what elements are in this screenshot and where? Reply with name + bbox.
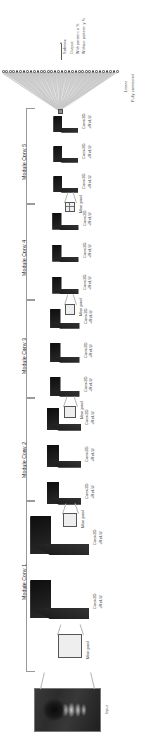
cnn-architecture-figure: Softmax Output: With pattern: x % Withou… bbox=[0, 0, 149, 752]
conv-layer-name: Conv2D bbox=[85, 483, 89, 499]
module-label: Module Conv 2 bbox=[22, 442, 27, 478]
conv-layer-activation: +ReLU bbox=[91, 411, 95, 425]
input-image bbox=[34, 688, 101, 732]
conv-layer-activation: +ReLU bbox=[89, 378, 93, 392]
input-label: Input bbox=[105, 705, 109, 714]
conv-layer-activation: +ReLU bbox=[88, 244, 92, 258]
conv-layer-activation: +ReLU bbox=[99, 595, 103, 609]
module-label: Module Conv 1 bbox=[22, 564, 27, 600]
module-label: Module Conv 3 bbox=[22, 338, 27, 374]
conv-layer-name: Conv2D bbox=[85, 409, 89, 425]
maxpool-layer-block bbox=[58, 634, 82, 658]
conv-layer-activation: +ReLU bbox=[88, 212, 92, 226]
conv-layer-activation: +ReLU bbox=[88, 145, 92, 159]
conv-layer-activation: +ReLU bbox=[99, 531, 103, 545]
conv-layer-name: Conv2D bbox=[82, 143, 86, 159]
conv-layer-activation: +ReLU bbox=[89, 344, 93, 358]
conv-layer-activation: +ReLU bbox=[88, 115, 92, 129]
conv-layer-block bbox=[62, 142, 78, 158]
module-label: Module Conv 4 bbox=[22, 240, 27, 276]
conv-layer-block bbox=[59, 439, 81, 461]
conv-layer-block bbox=[51, 506, 89, 544]
module-label: Module Conv 5 bbox=[22, 144, 27, 180]
conv-layer-name: Conv2D bbox=[93, 593, 97, 609]
conv-layer-activation: +ReLU bbox=[91, 448, 95, 462]
conv-layer-block bbox=[61, 372, 80, 391]
conv-layer-block bbox=[61, 338, 80, 357]
conv-layer-activation: +ReLU bbox=[89, 310, 93, 324]
conv-layer-activation: +ReLU bbox=[91, 485, 95, 499]
conv-layer-activation: +ReLU bbox=[88, 175, 92, 189]
conv-layer-block bbox=[51, 570, 89, 608]
maxpool-layer-name: Max pool bbox=[86, 641, 90, 659]
conv-layer-block bbox=[62, 208, 79, 225]
conv-layer-block bbox=[62, 172, 78, 188]
conv-layer-name: Conv2D bbox=[85, 446, 89, 462]
module-stack: Module Conv 5Conv2D+ReLUConv2D+ReLUConv2… bbox=[0, 0, 149, 752]
conv-layer-block bbox=[61, 304, 80, 323]
conv-layer-block bbox=[59, 402, 81, 424]
conv-layer-name: Conv2D bbox=[82, 173, 86, 189]
conv-layer-name: Conv2D bbox=[82, 113, 86, 129]
conv-layer-block bbox=[62, 112, 78, 128]
conv-layer-block bbox=[59, 476, 81, 498]
conv-layer-block bbox=[62, 240, 79, 257]
conv-layer-name: Conv2D bbox=[93, 529, 97, 545]
conv-layer-activation: +ReLU bbox=[88, 276, 92, 290]
conv-layer-block bbox=[62, 272, 79, 289]
